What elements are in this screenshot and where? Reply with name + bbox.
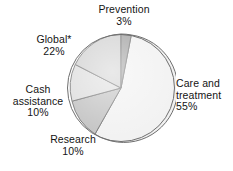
pie-label-cash-assistance-value: 10% [2,107,74,119]
pie-label-research: Research 10% [34,134,112,157]
pie-label-global-name: Global* [22,34,86,46]
pie-label-prevention: Prevention 3% [84,4,164,27]
pie-label-prevention-name: Prevention [84,4,164,16]
pie-label-research-value: 10% [34,146,112,158]
pie-label-prevention-value: 3% [84,16,164,28]
pie-chart-figure: Prevention 3% Global* 22% Cash assistanc… [0,0,233,171]
pie-label-care-and-treatment-value: 55% [176,101,233,113]
pie-label-care-and-treatment-name-1: Care and [176,78,233,90]
pie-label-research-name: Research [34,134,112,146]
pie-label-cash-assistance-name-1: Cash [2,84,74,96]
pie-label-global-value: 22% [22,46,86,58]
pie-label-global: Global* 22% [22,34,86,57]
pie-label-care-and-treatment: Care and treatment 55% [176,78,233,113]
pie-label-cash-assistance: Cash assistance 10% [2,84,74,119]
